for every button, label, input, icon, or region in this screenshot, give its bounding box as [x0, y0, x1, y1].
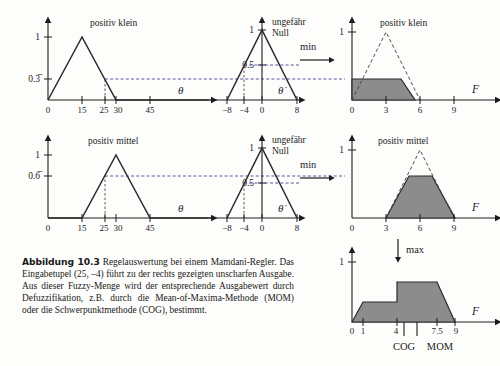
x-ticklabel-6: 6	[418, 105, 423, 115]
chart-title: positiv klein	[380, 18, 427, 28]
x-ticklabel-15: 15	[78, 105, 88, 115]
chart-aggregated-output-F: 1 0 1 4 7.5 9 F COG MOM	[339, 252, 496, 352]
x-ticklabel-0: 0	[350, 223, 355, 233]
x-ticklabel-neg8: −8	[222, 105, 232, 115]
x-axis-label: F	[471, 83, 480, 95]
operator-min-1: min	[300, 41, 330, 60]
x-ticklabel-7p5: 7.5	[431, 326, 443, 336]
x-ticklabel-4: 4	[394, 326, 399, 336]
membership-curve	[48, 155, 208, 218]
x-ticklabel-0: 0	[260, 223, 265, 233]
chart-title-line1: ungefähr	[272, 17, 307, 27]
x-ticklabel-8: 8	[295, 223, 300, 233]
chart-title: positiv mittel	[88, 136, 139, 146]
chart-title-line1: ungefähr	[272, 135, 307, 145]
x-ticklabel-0: 0	[46, 223, 51, 233]
x-ticklabel-6: 6	[418, 223, 423, 233]
chart-title: positiv mittel	[378, 136, 429, 146]
y-ticklabel-third: 0.3̅	[28, 74, 43, 84]
x-ticklabel-0: 0	[350, 105, 355, 115]
aggregated-output-area	[352, 282, 455, 322]
mom-label: MOM	[427, 341, 454, 352]
chart-rule2-input-thetadot: 1 0.5 −8 −4 0 8 θ̇ ungefähr Null	[208, 135, 307, 233]
chart-title-line2: Null	[272, 146, 289, 156]
x-axis-label: F	[471, 305, 480, 317]
x-axis-label: θ	[178, 84, 184, 96]
y-ticklabel-twothird: 0.6̅	[28, 171, 43, 181]
clipped-output-area	[352, 79, 415, 100]
x-ticklabel-8: 8	[295, 105, 300, 115]
chart-rule1-input-thetadot: 1 0.5 −8 −4 0 8 θ̇ ungefähr Null	[208, 17, 307, 115]
cog-label: COG	[393, 341, 416, 352]
x-ticklabel-25: 25	[100, 223, 110, 233]
x-ticklabel-9: 9	[452, 105, 457, 115]
chart-rule2-output-F: 1 0 3 6 9 F positiv mittel	[339, 136, 496, 233]
x-ticklabel-neg8: −8	[222, 223, 232, 233]
clipped-output-area	[386, 176, 455, 218]
x-axis-label: θ̇	[278, 84, 287, 96]
x-axis-label: θ̇	[278, 202, 287, 214]
figure-label: Abbildung 10.3	[22, 256, 100, 267]
x-ticklabel-0: 0	[46, 105, 51, 115]
x-ticklabel-3: 3	[384, 105, 389, 115]
y-ticklabel-1: 1	[339, 145, 344, 155]
x-ticklabel-45: 45	[146, 105, 156, 115]
x-ticklabel-15: 15	[78, 223, 88, 233]
x-ticklabel-0: 0	[260, 105, 265, 115]
min-label: min	[300, 159, 317, 170]
y-ticklabel-1: 1	[35, 32, 40, 42]
figure-caption: Abbildung 10.3 Regelauswertung bei einem…	[22, 256, 294, 317]
x-ticklabel-30: 30	[114, 223, 124, 233]
chart-title-line2: Null	[272, 28, 289, 38]
max-label: max	[406, 244, 425, 255]
x-axis-label: θ	[178, 202, 184, 214]
min-label: min	[300, 41, 317, 52]
operator-max: max	[398, 239, 425, 258]
x-ticklabel-9: 9	[452, 223, 457, 233]
x-ticklabel-9: 9	[454, 326, 459, 336]
y-ticklabel-1: 1	[35, 150, 40, 160]
x-ticklabel-3: 3	[384, 223, 389, 233]
x-ticklabel-1: 1	[361, 326, 366, 336]
chart-rule1-output-F: 1 0 3 6 9 F positiv klein	[339, 18, 496, 115]
operator-min-2: min	[300, 159, 330, 178]
x-axis-label: F	[471, 201, 480, 213]
x-ticklabel-45: 45	[146, 223, 156, 233]
y-ticklabel-1: 1	[249, 25, 254, 35]
x-ticklabel-30: 30	[114, 105, 124, 115]
y-ticklabel-1: 1	[339, 27, 344, 37]
x-ticklabel-25: 25	[100, 105, 110, 115]
x-ticklabel-neg4: −4	[239, 105, 249, 115]
x-ticklabel-0: 0	[350, 326, 355, 336]
chart-title: positiv klein	[90, 18, 137, 28]
y-ticklabel-1: 1	[249, 143, 254, 153]
membership-curve	[48, 37, 208, 100]
y-ticklabel-1: 1	[339, 257, 344, 267]
x-ticklabel-neg4: −4	[239, 223, 249, 233]
